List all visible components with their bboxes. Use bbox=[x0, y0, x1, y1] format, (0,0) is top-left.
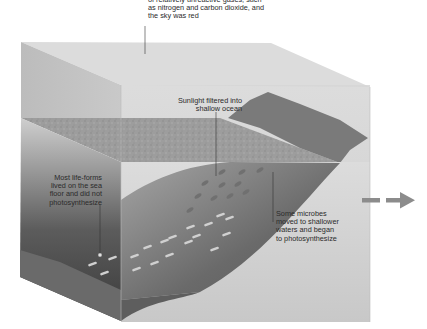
atmosphere-caption: of relatively unreactive gases, such as … bbox=[148, 0, 288, 21]
sea-floor-caption: Most life-forms lived on the sea floor a… bbox=[30, 174, 102, 207]
ocean-block-diagram bbox=[0, 0, 427, 329]
shallow-microbes-caption: Some microbes moved to shallower waters … bbox=[276, 210, 366, 243]
sunlight-caption: Sunlight filtered into shallow ocean bbox=[140, 97, 242, 113]
